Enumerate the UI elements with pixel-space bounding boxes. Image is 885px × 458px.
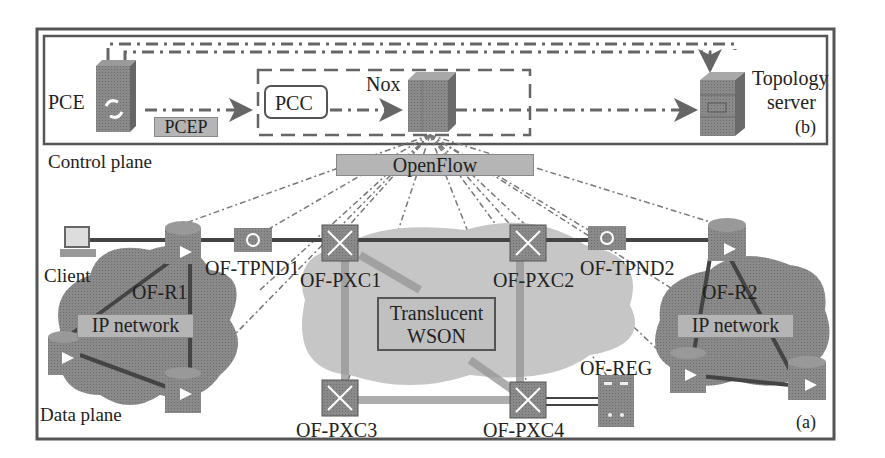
transponder-icon-of-tpnd1 (234, 228, 272, 252)
of-pxc2-label: OF-PXC2 (493, 270, 574, 290)
pce-label: PCE (48, 92, 85, 112)
pxc-icon-of-pxc2 (510, 225, 546, 261)
panel-tag-b: (b) (795, 118, 816, 136)
nox-label: Nox (366, 74, 400, 94)
router-icon-left-bottom-left (48, 331, 80, 375)
panel-tag-a: (a) (796, 413, 816, 431)
transponder-icon-of-tpnd2 (588, 226, 626, 250)
topology-server-label-line2: server (767, 92, 816, 112)
of-reg-label: OF-REG (580, 358, 652, 378)
router-icon-of-r2 (708, 218, 746, 261)
of-pxc3-label: OF-PXC3 (296, 420, 377, 440)
control-plane-label: Control plane (48, 152, 152, 171)
nox-server-icon (408, 72, 456, 132)
of-r2-label: OF-R2 (702, 282, 758, 302)
data-plane-label: Data plane (40, 405, 122, 424)
ip-network-left-label: IP network (77, 314, 194, 338)
of-pxc4-label: OF-PXC4 (483, 420, 564, 440)
of-tpnd2-label: OF-TPND2 (580, 258, 674, 278)
pxc-icon-of-pxc1 (322, 225, 358, 261)
router-icon-of-r1 (165, 221, 201, 264)
of-tpnd1-label: OF-TPND1 (205, 258, 299, 278)
regenerator-icon-of-reg (598, 375, 634, 427)
pce-server-icon (96, 60, 136, 132)
wson-label: Translucent WSON (377, 297, 496, 351)
pcc-label: PCC (275, 93, 313, 113)
wson-label-line1: Translucent (379, 303, 494, 323)
wson-label-line2: WSON (379, 326, 494, 346)
of-r1-label: OF-R1 (132, 282, 188, 302)
pcep-label: PCEP (154, 117, 218, 137)
client-label: Client (44, 266, 90, 285)
topology-server-icon (700, 72, 745, 136)
openflow-label: OpenFlow (336, 154, 534, 176)
pxc-icon-of-pxc3 (322, 380, 358, 416)
router-icon-right-bottom-right (788, 356, 826, 400)
ip-network-right-label: IP network (677, 314, 794, 338)
router-icon-left-bottom-right (165, 367, 201, 413)
of-pxc1-label: OF-PXC1 (300, 270, 381, 290)
pxc-icon-of-pxc4 (510, 382, 546, 418)
router-icon-right-bottom-left (670, 347, 706, 393)
topology-server-label-line1: Topology (752, 68, 828, 88)
